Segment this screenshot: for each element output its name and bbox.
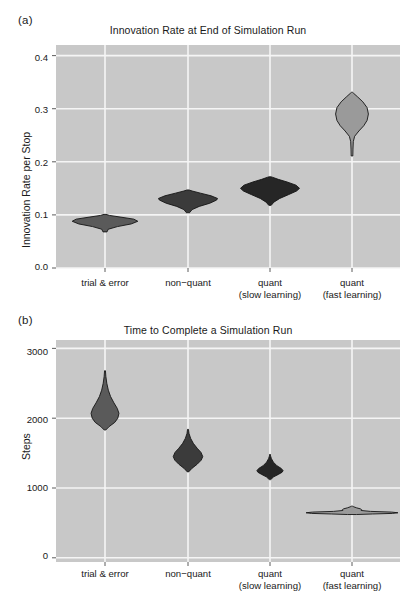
xtick-line1: quant <box>312 568 392 580</box>
xtick-line1: trial & error <box>65 568 145 580</box>
violin-figure: (a) Innovation Rate at End of Simulation… <box>0 0 416 616</box>
xtick-line2: (slow learning) <box>230 580 310 592</box>
panel-b-xtick-2: quant (slow learning) <box>230 568 310 591</box>
panel-a-xtick-0: trial & error <box>65 277 145 289</box>
panel-a-xtick-2: quant (slow learning) <box>230 277 310 300</box>
panel-b-xtick-1: non−quant <box>148 568 228 580</box>
xtick-line2: (slow learning) <box>230 289 310 301</box>
plot-background <box>56 45 400 268</box>
panel-a-xtick-1: non−quant <box>148 277 228 289</box>
xtick-line1: quant <box>230 568 310 580</box>
panel-a-xtick-3: quant (fast learning) <box>312 277 392 300</box>
xtick-line2: (fast learning) <box>312 580 392 592</box>
xtick-line1: non−quant <box>148 277 228 289</box>
panel-b: (b) Time to Complete a Simulation Run St… <box>0 300 416 616</box>
xtick-line2: (fast learning) <box>312 289 392 301</box>
panel-b-xtick-3: quant (fast learning) <box>312 568 392 591</box>
panel-a: (a) Innovation Rate at End of Simulation… <box>0 0 416 308</box>
plot-background <box>56 340 400 562</box>
panel-a-plot <box>0 0 416 308</box>
panel-b-xtick-0: trial & error <box>65 568 145 580</box>
xtick-line1: non−quant <box>148 568 228 580</box>
xtick-line1: trial & error <box>65 277 145 289</box>
xtick-line1: quant <box>312 277 392 289</box>
xtick-line1: quant <box>230 277 310 289</box>
